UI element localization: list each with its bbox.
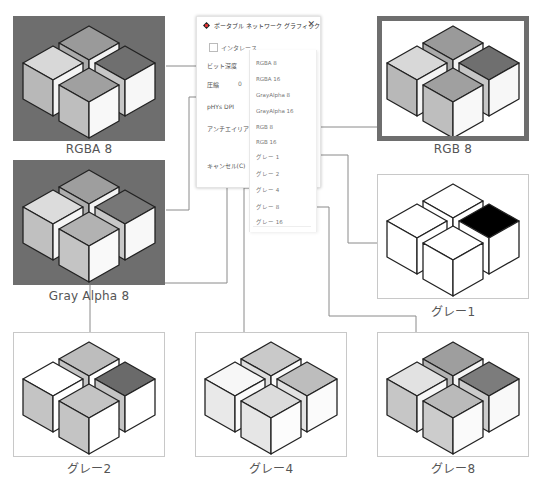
dropdown-divider — [253, 226, 311, 227]
compression-label: 圧縮 — [207, 80, 219, 89]
option-gray4[interactable]: グレー 4 — [256, 186, 279, 194]
sample-gray1 — [377, 174, 529, 299]
sample-rgba8 — [13, 16, 165, 141]
close-icon[interactable]: ✕ — [307, 19, 315, 29]
checkbox-box[interactable] — [209, 43, 218, 52]
option-rgba16[interactable]: RGBA 16 — [256, 76, 280, 82]
sample-rgb8 — [377, 16, 529, 141]
option-gray8[interactable]: グレー 8 — [256, 203, 279, 211]
bit-depth-dropdown[interactable]: RGBA 8 RGBA 16 GrayAlpha 8 GrayAlpha 16 … — [249, 50, 317, 232]
sample-gray4 — [195, 332, 347, 457]
app-icon — [203, 22, 210, 29]
caption-gray1: グレー1 — [377, 302, 529, 319]
caption-gray4: グレー4 — [195, 459, 347, 476]
sample-gray2 — [13, 332, 165, 457]
phys-dpi-label: pHYs DPI — [207, 103, 234, 110]
cubes-illustration — [382, 21, 524, 136]
option-gray16[interactable]: グレー 16 — [256, 218, 283, 226]
option-rgb16[interactable]: RGB 16 — [256, 139, 277, 145]
option-gray1[interactable]: グレー 1 — [256, 153, 279, 161]
cubes-illustration — [378, 333, 528, 456]
caption-rgb8: RGB 8 — [377, 142, 529, 156]
sample-grayalpha8 — [13, 160, 165, 285]
caption-rgba8: RGBA 8 — [13, 142, 165, 156]
cubes-illustration — [13, 160, 165, 285]
caption-gray8: グレー8 — [377, 459, 529, 476]
sample-gray8 — [377, 332, 529, 457]
option-grayalpha8[interactable]: GrayAlpha 8 — [256, 92, 290, 98]
cubes-illustration — [378, 175, 528, 298]
dialog-title: ポータブル ネットワーク グラフィック — [203, 21, 320, 30]
compression-select[interactable]: 0 — [238, 80, 242, 87]
cancel-button[interactable]: キャンセル(C) — [201, 159, 251, 173]
caption-gray2: グレー2 — [13, 459, 165, 476]
option-gray2[interactable]: グレー 2 — [256, 170, 279, 178]
dialog-title-text: ポータブル ネットワーク グラフィック — [214, 22, 320, 29]
antialias-label: アンチエイリアス — [207, 124, 255, 133]
option-rgb8[interactable]: RGB 8 — [256, 124, 273, 130]
caption-grayalpha8: Gray Alpha 8 — [13, 289, 165, 303]
bit-depth-label: ビット深度 — [207, 61, 237, 70]
cubes-illustration — [14, 333, 164, 456]
cubes-illustration — [13, 16, 165, 141]
cubes-illustration — [196, 333, 346, 456]
option-rgba8[interactable]: RGBA 8 — [256, 60, 277, 66]
option-grayalpha16[interactable]: GrayAlpha 16 — [256, 108, 294, 114]
